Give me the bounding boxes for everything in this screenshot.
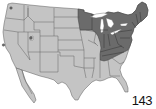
range-spot-seattle [10,7,13,10]
figure-number: 143 [132,93,152,108]
range-spot-salt-lake [30,37,33,40]
range-spot-sf-bay [2,44,5,47]
